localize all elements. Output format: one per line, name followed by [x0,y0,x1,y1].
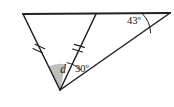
tick-marks-CD [73,44,85,52]
angle-30-label: 30º [75,63,90,74]
geometry-canvas: d 30º 43º [0,0,174,107]
segment-diagonal-DB [60,13,170,90]
segment-cevian-CD [60,14,96,90]
angle-d-label: d [60,63,66,75]
tick-marks-AD [33,44,45,53]
geometry-figure: d 30º 43º [0,0,174,107]
angle-43-label: 43º [127,15,142,26]
